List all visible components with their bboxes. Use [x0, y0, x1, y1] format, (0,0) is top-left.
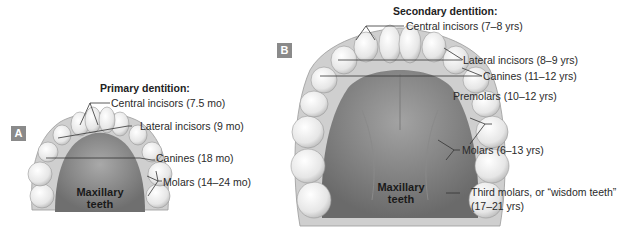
- label-secondary-canines: Canines (11–12 yrs): [483, 70, 577, 82]
- secondary-jaw-label-line1: Maxillary: [361, 181, 441, 193]
- primary-jaw-label-line1: Maxillary: [65, 186, 135, 198]
- label-primary-molars: Molars (14–24 mo): [163, 176, 251, 188]
- primary-dentition-heading: Primary dentition:: [100, 82, 190, 94]
- label-primary-canines: Canines (18 mo): [156, 152, 234, 164]
- primary-jaw-label: Maxillary teeth: [65, 186, 135, 210]
- dentition-diagram: A Primary dentition: Central incisors (7…: [0, 0, 628, 230]
- secondary-jaw-label-line2: teeth: [361, 193, 441, 205]
- primary-jaw-label-line2: teeth: [65, 198, 135, 210]
- label-primary-lateral-incisors: Lateral incisors (9 mo): [140, 120, 244, 132]
- label-third-molars: Third molars, or “wisdom teeth”: [471, 186, 616, 198]
- label-primary-central-incisors: Central incisors (7.5 mo): [111, 97, 225, 109]
- label-third-molars-age: (17–21 yrs): [471, 200, 524, 212]
- secondary-dentition-heading: Secondary dentition:: [393, 5, 497, 17]
- secondary-jaw-label: Maxillary teeth: [361, 181, 441, 205]
- label-secondary-premolars: Premolars (10–12 yrs): [453, 90, 557, 102]
- label-secondary-lateral-incisors: Lateral incisors (8–9 yrs): [463, 54, 578, 66]
- label-secondary-molars: Molars (6–13 yrs): [462, 144, 544, 156]
- label-secondary-central-incisors: Central incisors (7–8 yrs): [406, 20, 523, 32]
- panel-a-badge: A: [11, 126, 26, 141]
- panel-b-badge: B: [277, 43, 292, 58]
